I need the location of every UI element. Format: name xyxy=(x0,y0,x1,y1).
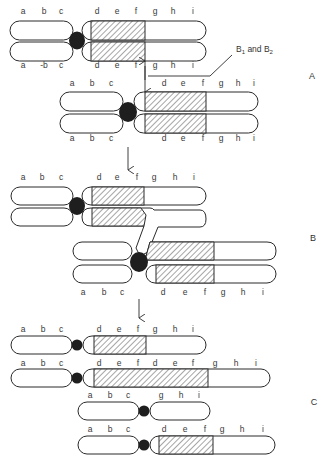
gene-label: h xyxy=(173,172,178,182)
centromere xyxy=(130,252,148,272)
gene-label: e xyxy=(183,287,188,297)
chromosome-pair-a2 xyxy=(60,92,258,133)
centromere xyxy=(139,440,150,451)
gene-label: a xyxy=(88,424,93,434)
gene-label: c xyxy=(126,390,131,400)
gene-label: a xyxy=(21,60,26,70)
section-a: B1 and B2 xyxy=(10,21,274,133)
chromosome-left-arm xyxy=(78,436,139,454)
gene-label: b xyxy=(40,172,45,182)
gene-label: i xyxy=(198,390,200,400)
gene-label: c xyxy=(59,324,64,334)
gene-label: d xyxy=(162,133,167,143)
gene-label: h xyxy=(240,424,245,434)
chromatid-left-arm xyxy=(60,92,123,111)
hatched-segment-def xyxy=(94,336,146,354)
chromosome-right-arm xyxy=(150,402,210,420)
chromatid-left-arm xyxy=(73,242,132,260)
hatched-segment-def xyxy=(145,242,214,260)
chromosome-left-arm xyxy=(11,369,72,387)
gene-label: h xyxy=(171,60,176,70)
gene-label: i xyxy=(193,172,195,182)
section-b xyxy=(11,187,276,283)
section-label-c: C xyxy=(311,397,318,407)
section-label-b: B xyxy=(310,233,316,243)
gene-label: a xyxy=(70,133,75,143)
chromosome-diagram: B1 and B2 xyxy=(0,0,329,467)
section-label-a: A xyxy=(309,71,315,81)
hatched-segment-def xyxy=(145,114,206,133)
gene-label: f xyxy=(204,287,207,297)
gene-label: c xyxy=(59,358,64,368)
gene-label: f xyxy=(202,78,205,88)
gene-label: h xyxy=(173,324,178,334)
gene-label: f xyxy=(202,133,205,143)
hatched-segment-def xyxy=(92,208,146,226)
centromere xyxy=(69,197,85,215)
chromatid-left-arm xyxy=(10,42,73,61)
gene-label: f xyxy=(204,424,207,434)
gene-label: i xyxy=(253,78,255,88)
hatched-segment-def xyxy=(92,187,144,205)
gene-label: a xyxy=(21,172,26,182)
gene-label: i xyxy=(192,6,194,16)
centromere xyxy=(72,373,83,384)
gene-label: d xyxy=(97,324,102,334)
gene-label: e xyxy=(115,60,120,70)
gene-label: g xyxy=(153,60,158,70)
gene-label: a xyxy=(88,390,93,400)
gene-label: h xyxy=(179,390,184,400)
chromatid-left-arm xyxy=(11,208,73,226)
gene-label: -b xyxy=(40,60,48,70)
centromere xyxy=(119,102,137,122)
gene-label: e xyxy=(115,6,120,16)
centromere xyxy=(69,32,85,50)
gene-label: f xyxy=(136,172,139,182)
gene-label: c xyxy=(59,172,64,182)
gene-label: d xyxy=(162,424,167,434)
chromatid-left-arm xyxy=(60,114,123,133)
gene-label: g xyxy=(152,172,157,182)
gene-label: d xyxy=(161,287,166,297)
hatched-segment-def xyxy=(91,42,145,61)
gene-label: a xyxy=(81,287,86,297)
gene-label: b xyxy=(42,6,47,16)
gene-label: e xyxy=(173,358,178,368)
hatched-segment-def xyxy=(145,92,206,111)
chromatid-left-arm xyxy=(10,21,73,40)
gene-label: g xyxy=(219,78,224,88)
hatched-segment-def xyxy=(159,436,213,454)
gene-label: g xyxy=(153,324,158,334)
gene-label: a xyxy=(70,78,75,88)
gene-label: b xyxy=(102,287,107,297)
gene-label: g xyxy=(220,424,225,434)
gene-label: d xyxy=(153,358,158,368)
gene-label: f xyxy=(135,6,138,16)
chromosome-left-arm xyxy=(78,402,139,420)
gene-label: b xyxy=(41,358,46,368)
gene-label: a xyxy=(21,358,26,368)
gene-label: e xyxy=(181,133,186,143)
callout-b1-b2: B1 and B2 xyxy=(236,44,274,55)
gene-label: b xyxy=(90,133,95,143)
gene-label: h xyxy=(241,287,246,297)
gene-label: b xyxy=(108,390,113,400)
gene-label: c xyxy=(109,133,114,143)
hatched-segment-defdef xyxy=(94,369,208,387)
section-c xyxy=(11,336,275,454)
hatched-segment-def xyxy=(156,265,214,283)
gene-label: g xyxy=(159,390,164,400)
gene-label: b xyxy=(108,424,113,434)
gene-label: e xyxy=(115,172,120,182)
gene-label: f xyxy=(137,358,140,368)
gene-label: g xyxy=(213,358,218,368)
gene-label: i xyxy=(192,60,194,70)
gene-label: f xyxy=(137,324,140,334)
gene-label: i xyxy=(262,287,264,297)
gene-label: a xyxy=(21,324,26,334)
gene-label: h xyxy=(236,133,241,143)
centromere xyxy=(139,406,150,417)
gene-label: i xyxy=(262,424,264,434)
centromere xyxy=(72,340,83,351)
gene-label: e xyxy=(117,358,122,368)
